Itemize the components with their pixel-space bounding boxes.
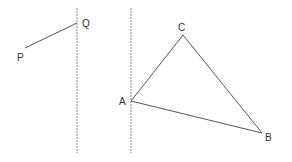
triangle-abc	[131, 35, 262, 133]
label-c: C	[178, 22, 185, 33]
label-q: Q	[82, 18, 90, 29]
label-p: P	[17, 52, 24, 63]
geometry-diagram: Q P A C B	[0, 0, 292, 162]
label-b: B	[265, 132, 272, 143]
segment-pq	[25, 23, 77, 48]
label-a: A	[119, 96, 126, 107]
